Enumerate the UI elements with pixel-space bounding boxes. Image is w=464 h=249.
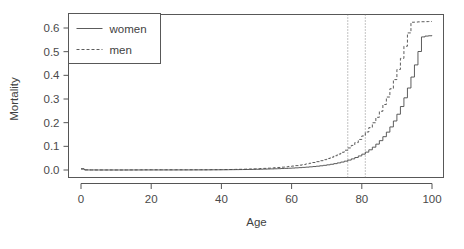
x-axis-tick-label: 80	[355, 193, 368, 205]
y-axis-tick-label: 0.4	[44, 69, 61, 81]
y-axis-tick-label: 0.2	[44, 117, 60, 129]
y-axis-tick-label: 0.1	[44, 140, 60, 152]
x-axis-tick-label: 0	[78, 193, 84, 205]
chart-svg: 0.00.10.20.30.40.50.6020406080100AgeMort…	[0, 0, 464, 249]
x-axis-title: Age	[246, 216, 266, 228]
x-axis-tick-label: 60	[285, 193, 298, 205]
y-axis-tick-label: 0.3	[44, 93, 60, 105]
x-axis-tick-label: 20	[145, 193, 158, 205]
x-axis-tick-label: 100	[422, 193, 441, 205]
y-axis-title: Mortality	[8, 77, 20, 121]
x-axis-tick-label: 40	[215, 193, 228, 205]
mortality-chart: 0.00.10.20.30.40.50.6020406080100AgeMort…	[0, 0, 464, 249]
legend-label-men: men	[110, 44, 132, 56]
y-axis-tick-label: 0.0	[44, 164, 60, 176]
legend-box	[69, 14, 161, 64]
legend-label-women: women	[109, 23, 147, 35]
y-axis-tick-label: 0.5	[44, 46, 60, 58]
y-axis-tick-label: 0.6	[44, 22, 60, 34]
